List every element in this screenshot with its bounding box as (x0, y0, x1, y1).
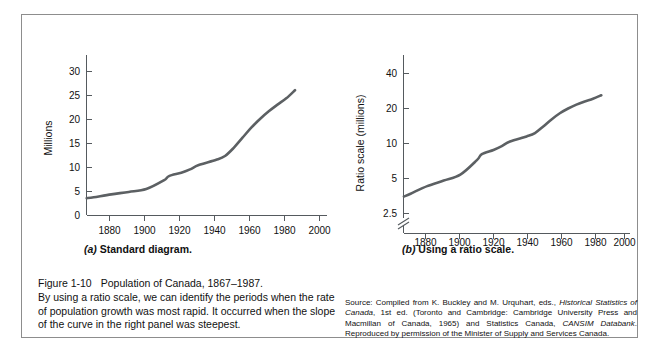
y-axis-ticks (404, 74, 410, 214)
y-tick-label: 25 (69, 90, 81, 101)
panel-a-letter: (a) (84, 243, 97, 255)
x-tick-label: 1900 (133, 225, 156, 236)
figure-number: Figure 1-10 (38, 277, 92, 289)
panel-a-caption: (a) Standard diagram. (84, 243, 192, 255)
x-tick-label: 1960 (550, 237, 573, 248)
figure-frame: 30 25 20 15 10 5 0 Millions 1880 1900 1 (21, 14, 638, 338)
y-tick-label: 2.5 (383, 208, 397, 219)
y-tick-label: 15 (69, 138, 81, 149)
y-tick-label: 20 (386, 103, 398, 114)
y-axis-title: Ratio scale (millions) (354, 95, 366, 192)
x-tick-label: 1940 (516, 237, 539, 248)
y-tick-label: 20 (69, 114, 81, 125)
y-tick-label: 0 (74, 210, 80, 221)
y-tick-label: 5 (391, 173, 397, 184)
y-tick-label: 40 (386, 68, 398, 79)
population-curve-linear (87, 90, 295, 198)
x-tick-label: 1980 (584, 237, 607, 248)
population-curve-log (404, 95, 601, 196)
y-tick-label: 10 (69, 162, 81, 173)
x-tick-label: 1980 (273, 225, 296, 236)
figure-title: Population of Canada, 1867–1987. (101, 277, 263, 289)
figure-note: Figure 1-10Population of Canada, 1867–19… (38, 276, 338, 332)
x-tick-label: 1940 (203, 225, 226, 236)
y-tick-label: 30 (69, 66, 81, 77)
y-axis-ticks (87, 72, 93, 192)
chart-panel-standard-diagram: 30 25 20 15 10 5 0 Millions 1880 1900 1 (22, 15, 342, 240)
x-tick-label: 2000 (613, 237, 636, 248)
panel-b-letter: (b) (402, 243, 415, 255)
chart-panel-ratio-scale: 40 20 10 5 2.5 Ratio scale (millions) 18… (342, 15, 639, 240)
panel-b-caption-text: Using a ratio scale. (418, 243, 514, 255)
x-tick-label: 1920 (168, 225, 191, 236)
panel-b-caption: (b) Using a ratio scale. (402, 243, 514, 255)
x-tick-label: 1960 (238, 225, 261, 236)
source-note: Source: Compiled from K. Buckley and M. … (345, 298, 637, 340)
x-tick-label: 2000 (308, 225, 331, 236)
x-tick-label: 1880 (98, 225, 121, 236)
standard-diagram-plot: 30 25 20 15 10 5 0 Millions 1880 1900 1 (22, 15, 342, 240)
figure-title-line: Figure 1-10Population of Canada, 1867–19… (38, 276, 338, 290)
source-prefix: Source: Compiled from K. Buckley and M. … (345, 298, 559, 307)
y-axis-title: Millions (42, 120, 54, 155)
y-tick-label: 10 (386, 138, 398, 149)
source-italic-title-2: CANSIM Databank (562, 319, 634, 328)
y-tick-label: 5 (74, 186, 80, 197)
ratio-scale-plot: 40 20 10 5 2.5 Ratio scale (millions) (342, 15, 639, 240)
figure-description: By using a ratio scale, we can identify … (38, 291, 338, 332)
panel-a-caption-text: Standard diagram. (100, 243, 192, 255)
